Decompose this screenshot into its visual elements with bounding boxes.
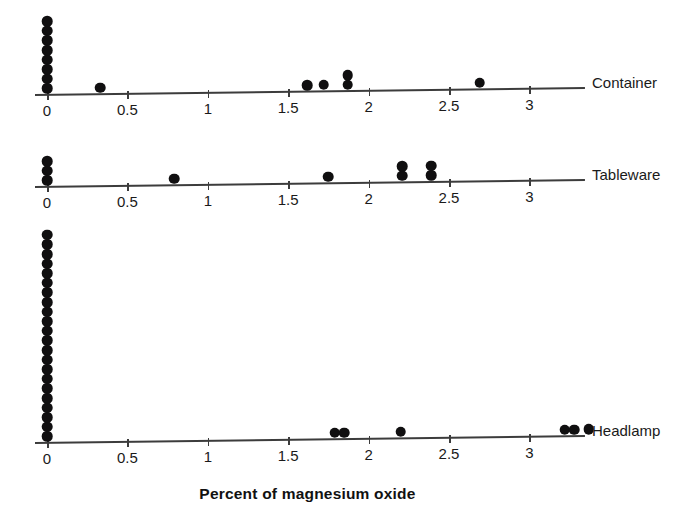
data-point (42, 268, 53, 279)
panel-label-tableware: Tableware (592, 166, 660, 183)
data-point (302, 80, 313, 91)
data-point (42, 25, 53, 36)
data-point (323, 171, 334, 182)
data-point (42, 412, 53, 423)
x-tick-2-5 (449, 435, 451, 443)
x-tick-label-2-5: 2.5 (439, 97, 460, 114)
x-axis-title: Percent of magnesium oxide (199, 485, 415, 503)
data-point (42, 35, 53, 46)
data-point (474, 78, 485, 89)
x-tick-label-1-5: 1.5 (278, 447, 299, 464)
data-point (339, 427, 350, 438)
data-point (42, 345, 53, 356)
data-point (42, 421, 53, 432)
x-tick-0-5 (127, 183, 129, 191)
x-tick-1 (208, 90, 210, 98)
data-point (426, 170, 437, 181)
data-point (42, 373, 53, 384)
x-tick-label-0-5: 0.5 (117, 449, 138, 466)
panel-label-headlamp: Headlamp (592, 422, 660, 439)
data-point (42, 45, 53, 56)
panel-label-container: Container (592, 74, 657, 91)
data-point (42, 258, 53, 269)
x-tick-2 (369, 436, 371, 444)
x-tick-2-5 (449, 179, 451, 187)
data-point (42, 402, 53, 413)
data-point (426, 161, 437, 172)
x-tick-1-5 (288, 89, 290, 97)
x-tick-label-2: 2 (364, 98, 372, 115)
x-tick-2 (369, 180, 371, 188)
data-point (342, 79, 353, 90)
data-point (42, 354, 53, 365)
dot-plot-figure: 00.511.522.53Container00.511.522.53Table… (0, 0, 697, 518)
x-tick-1-5 (288, 437, 290, 445)
x-tick-label-1: 1 (204, 192, 212, 209)
data-point (42, 249, 53, 260)
x-tick-label-1: 1 (204, 100, 212, 117)
data-point (42, 175, 53, 186)
x-tick-label-3: 3 (525, 444, 533, 461)
x-tick-2-5 (449, 87, 451, 95)
x-tick-label-1: 1 (204, 448, 212, 465)
x-tick-label-1-5: 1.5 (278, 99, 299, 116)
data-point (42, 54, 53, 65)
x-tick-0-5 (127, 439, 129, 447)
data-point (318, 80, 329, 91)
x-tick-label-0-5: 0.5 (117, 193, 138, 210)
data-point (42, 165, 53, 176)
data-point (42, 383, 53, 394)
x-tick-label-2: 2 (364, 190, 372, 207)
data-point (42, 277, 53, 288)
data-point (42, 64, 53, 75)
data-point (42, 73, 53, 84)
data-point (42, 335, 53, 346)
data-point (42, 287, 53, 298)
axis-line (35, 179, 585, 188)
data-point (397, 161, 408, 172)
data-point (42, 393, 53, 404)
x-tick-label-2: 2 (364, 446, 372, 463)
x-tick-label-2-5: 2.5 (439, 445, 460, 462)
data-point (569, 424, 580, 435)
x-tick-label-0: 0 (43, 102, 51, 119)
x-tick-label-2-5: 2.5 (439, 189, 460, 206)
data-point (397, 171, 408, 182)
axis-line (35, 435, 585, 444)
data-point (42, 316, 53, 327)
data-point (169, 173, 180, 184)
x-tick-3 (529, 178, 531, 186)
data-point (42, 16, 53, 27)
x-tick-3 (529, 86, 531, 94)
x-tick-0-5 (127, 91, 129, 99)
data-point (42, 325, 53, 336)
x-tick-1-5 (288, 181, 290, 189)
data-point (395, 427, 406, 438)
x-tick-1 (208, 438, 210, 446)
x-tick-label-0: 0 (43, 450, 51, 467)
x-tick-label-1-5: 1.5 (278, 191, 299, 208)
data-point (42, 364, 53, 375)
x-tick-1 (208, 182, 210, 190)
data-point (42, 83, 53, 94)
data-point (95, 82, 106, 93)
data-point (42, 239, 53, 250)
data-point (42, 306, 53, 317)
x-tick-label-0-5: 0.5 (117, 101, 138, 118)
x-tick-3 (529, 434, 531, 442)
data-point (42, 229, 53, 240)
data-point (42, 297, 53, 308)
x-tick-label-3: 3 (525, 96, 533, 113)
data-point (342, 70, 353, 81)
data-point (42, 431, 53, 442)
data-point (42, 156, 53, 167)
x-tick-label-3: 3 (525, 188, 533, 205)
x-tick-label-0: 0 (43, 194, 51, 211)
x-tick-2 (369, 88, 371, 96)
